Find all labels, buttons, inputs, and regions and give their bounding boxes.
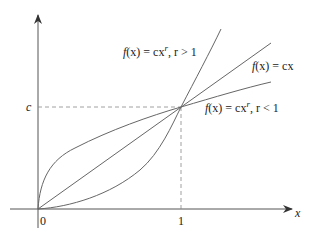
origin-label: 0 (40, 214, 46, 228)
x-axis-label: x (294, 206, 301, 220)
power-function-diagram: c 0 1 x f(x) = cxr, r > 1 f(x) = cx f(x)… (0, 0, 311, 243)
x-tick-label-1: 1 (178, 214, 184, 228)
label-power-lt1: f(x) = cxr, r < 1 (205, 99, 279, 115)
label-power-gt1: f(x) = cxr, r > 1 (123, 43, 197, 59)
linear-curve (38, 43, 271, 209)
label-linear: f(x) = cx (252, 59, 293, 73)
y-tick-label-c: c (26, 100, 32, 114)
